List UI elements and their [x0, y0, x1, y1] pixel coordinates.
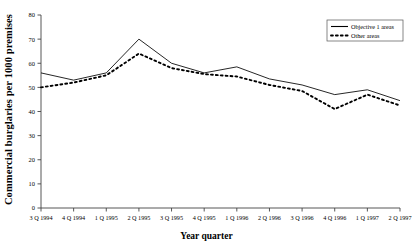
x-axis-tick-label: 4 Q 1995	[193, 214, 216, 221]
x-axis-tick-label: 1 Q 1996	[225, 214, 248, 221]
x-axis-tick-label: 2 Q 1997	[388, 214, 411, 221]
y-axis-tick-label: 50	[29, 84, 35, 91]
x-axis-tick-label: 4 Q 1996	[323, 214, 346, 221]
x-axis-tick-label: 3 Q 1996	[291, 214, 314, 221]
legend-label-1: Objective 1 areas	[351, 23, 395, 30]
x-axis-tick-label: 2 Q 1995	[127, 214, 150, 221]
y-axis-tick-label: 10	[29, 180, 35, 187]
x-axis-title: Year quarter	[0, 231, 413, 241]
x-axis-title-text: Year quarter	[180, 231, 232, 241]
x-axis-tick-label: 3 Q 1994	[29, 214, 52, 221]
axis-lines	[41, 15, 400, 208]
chart-figure: Commercial burglaries per 1000 premises …	[0, 0, 413, 250]
y-axis-tick-label: 40	[29, 108, 35, 115]
x-axis-tick-label: 1 Q 1997	[356, 214, 379, 221]
series-line-1	[41, 39, 400, 101]
y-axis-tick-label: 80	[29, 11, 35, 18]
line-chart-plot: 01020304050607080 3 Q 19944 Q 19941 Q 19…	[0, 0, 413, 250]
series-group	[41, 39, 400, 109]
chart-legend: Objective 1 areasOther areas	[327, 20, 403, 41]
y-axis-tick-group: 01020304050607080	[29, 11, 41, 211]
y-axis-tick-label: 60	[29, 60, 35, 67]
legend-label-2: Other areas	[351, 32, 380, 39]
x-axis-tick-label: 1 Q 1995	[95, 214, 118, 221]
y-axis-tick-label: 0	[32, 204, 35, 211]
y-axis-tick-label: 30	[29, 132, 35, 139]
y-axis-tick-label: 70	[29, 36, 35, 43]
x-axis-tick-group: 3 Q 19944 Q 19941 Q 19952 Q 19953 Q 1995…	[29, 208, 411, 221]
x-axis-tick-label: 4 Q 1994	[62, 214, 85, 221]
x-axis-tick-label: 3 Q 1995	[160, 214, 183, 221]
x-axis-tick-label: 2 Q 1996	[258, 214, 281, 221]
y-axis-tick-label: 20	[29, 156, 35, 163]
series-line-2	[41, 54, 400, 109]
